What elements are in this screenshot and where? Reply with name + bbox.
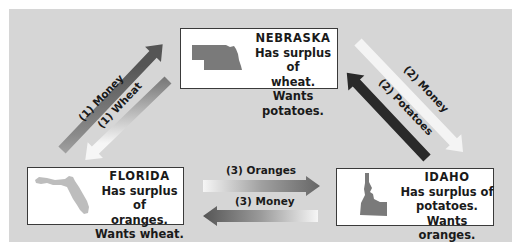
arrow-3-oranges bbox=[203, 176, 320, 196]
state-line: wheat. bbox=[247, 75, 339, 90]
state-line: Has surplus of bbox=[247, 46, 339, 75]
state-name: NEBRASKA bbox=[247, 31, 339, 46]
state-line: potatoes. bbox=[399, 199, 495, 214]
state-line: Wants potatoes. bbox=[247, 89, 339, 118]
state-line: oranges. bbox=[94, 213, 185, 228]
label-3-oranges: (3) Oranges bbox=[226, 164, 296, 176]
state-name: FLORIDA bbox=[94, 169, 185, 184]
state-name: IDAHO bbox=[399, 170, 495, 185]
state-line: Wants wheat. bbox=[94, 227, 185, 242]
arrow-3-money bbox=[203, 206, 318, 226]
idaho-box: IDAHO Has surplus of potatoes. Wants ora… bbox=[336, 168, 494, 226]
florida-box: FLORIDA Has surplus of oranges. Wants wh… bbox=[27, 167, 184, 225]
label-3-money: (3) Money bbox=[235, 195, 295, 207]
state-line: Has surplus of bbox=[94, 184, 185, 213]
state-line: Has surplus of bbox=[399, 185, 495, 200]
nebraska-box: NEBRASKA Has surplus of wheat. Wants pot… bbox=[180, 28, 338, 89]
nebraska-map-icon bbox=[192, 45, 244, 71]
state-line: Wants oranges. bbox=[399, 214, 495, 243]
idaho-map-icon bbox=[360, 173, 388, 217]
florida-map-icon bbox=[35, 175, 91, 215]
